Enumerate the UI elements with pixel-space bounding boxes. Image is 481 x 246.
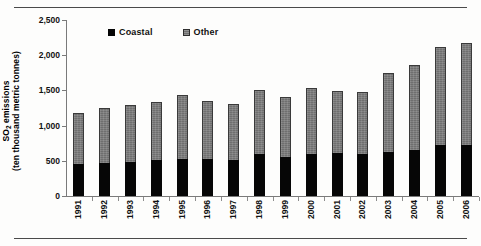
- bar-2006[interactable]: [461, 43, 472, 196]
- x-tick-label-1991: 1991: [73, 200, 84, 219]
- bar-segment-other[interactable]: [254, 90, 265, 154]
- x-tick-mark: [92, 197, 93, 201]
- bar-segment-other[interactable]: [409, 65, 420, 149]
- x-tick-label-2003: 2003: [383, 200, 394, 219]
- x-tick-label-2001: 2001: [332, 200, 343, 219]
- x-tick-label-1997: 1997: [228, 200, 239, 219]
- y-axis-label: SO2 emissions (ten thousand metric tonne…: [2, 36, 20, 186]
- bar-segment-coastal[interactable]: [73, 164, 84, 196]
- bar-segment-other[interactable]: [73, 113, 84, 164]
- y-tick-label-text: 2,500: [28, 16, 60, 25]
- bar-segment-coastal[interactable]: [280, 157, 291, 196]
- x-tick-label-2005: 2005: [435, 200, 446, 219]
- bar-2004[interactable]: [409, 65, 420, 196]
- x-tick-mark: [427, 197, 428, 201]
- y-axis-label-subscript: 2: [5, 125, 12, 129]
- x-tick-label-1998: 1998: [254, 200, 265, 219]
- bar-segment-other[interactable]: [280, 97, 291, 156]
- bar-1998[interactable]: [254, 90, 265, 196]
- bar-segment-coastal[interactable]: [202, 159, 213, 196]
- chart-legend: Coastal Other: [108, 27, 218, 37]
- x-tick-label-2002: 2002: [357, 200, 368, 219]
- bar-series-container: [66, 20, 479, 196]
- bar-1993[interactable]: [125, 105, 136, 197]
- bar-2002[interactable]: [357, 92, 368, 196]
- bar-1997[interactable]: [228, 104, 239, 196]
- y-tick-label-text: 1,000: [28, 122, 60, 131]
- bar-segment-coastal[interactable]: [409, 150, 420, 196]
- bar-segment-other[interactable]: [357, 92, 368, 154]
- bar-segment-coastal[interactable]: [306, 154, 317, 196]
- x-tick-mark: [273, 197, 274, 201]
- x-tick-mark: [324, 197, 325, 201]
- plot-area: SO2 emissions (ten thousand metric tonne…: [0, 0, 481, 246]
- bar-1995[interactable]: [177, 95, 188, 196]
- legend-swatch-coastal-icon: [108, 29, 115, 36]
- bar-1992[interactable]: [99, 108, 110, 196]
- x-tick-mark: [376, 197, 377, 201]
- x-tick-mark: [195, 197, 196, 201]
- bar-segment-coastal[interactable]: [383, 152, 394, 196]
- x-tick-mark: [169, 197, 170, 201]
- legend-swatch-other-icon: [183, 29, 190, 36]
- x-tick-label-1999: 1999: [280, 200, 291, 219]
- bar-1991[interactable]: [73, 113, 84, 196]
- bar-segment-other[interactable]: [177, 95, 188, 158]
- chart-figure: SO2 emissions (ten thousand metric tonne…: [0, 0, 481, 246]
- bar-1994[interactable]: [151, 102, 162, 196]
- legend-label-coastal: Coastal: [119, 27, 153, 37]
- y-axis-label-units: (ten thousand metric tonnes): [12, 36, 22, 186]
- bar-segment-coastal[interactable]: [435, 145, 446, 196]
- bar-2005[interactable]: [435, 47, 446, 196]
- legend-item-coastal: Coastal: [108, 27, 153, 37]
- bar-segment-other[interactable]: [332, 91, 343, 153]
- x-tick-mark: [247, 197, 248, 201]
- x-tick-mark: [298, 197, 299, 201]
- bar-segment-other[interactable]: [435, 47, 446, 146]
- bar-segment-coastal[interactable]: [332, 153, 343, 196]
- y-tick-label-text: 0: [28, 192, 60, 201]
- bar-segment-other[interactable]: [306, 88, 317, 153]
- x-tick-label-1996: 1996: [202, 200, 213, 219]
- bar-segment-coastal[interactable]: [228, 160, 239, 196]
- bar-1999[interactable]: [280, 97, 291, 196]
- bar-2001[interactable]: [332, 91, 343, 196]
- bar-2003[interactable]: [383, 73, 394, 196]
- x-tick-label-1992: 1992: [99, 200, 110, 219]
- y-axis-label-so: SO: [1, 129, 11, 141]
- x-tick-mark: [350, 197, 351, 201]
- bar-segment-other[interactable]: [383, 73, 394, 152]
- bar-segment-coastal[interactable]: [151, 160, 162, 196]
- x-tick-mark: [479, 197, 480, 201]
- x-tick-mark: [453, 197, 454, 201]
- x-tick-label-2000: 2000: [306, 200, 317, 219]
- bar-segment-other[interactable]: [99, 108, 110, 163]
- bar-segment-other[interactable]: [125, 105, 136, 162]
- y-tick-mark: [62, 196, 67, 197]
- bar-2000[interactable]: [306, 88, 317, 196]
- bar-segment-other[interactable]: [202, 101, 213, 159]
- x-tick-label-1993: 1993: [125, 200, 136, 219]
- y-tick-label-text: 500: [28, 157, 60, 166]
- x-tick-mark: [118, 197, 119, 201]
- bar-segment-coastal[interactable]: [461, 145, 472, 196]
- x-tick-mark: [143, 197, 144, 201]
- x-tick-mark: [402, 197, 403, 201]
- legend-item-other: Other: [183, 27, 219, 37]
- bar-segment-coastal[interactable]: [177, 159, 188, 196]
- x-tick-label-2004: 2004: [409, 200, 420, 219]
- bar-1996[interactable]: [202, 101, 213, 196]
- bar-segment-coastal[interactable]: [357, 154, 368, 196]
- x-tick-mark: [221, 197, 222, 201]
- bar-segment-other[interactable]: [461, 43, 472, 145]
- bar-segment-other[interactable]: [151, 102, 162, 160]
- y-tick-label-text: 1,500: [28, 86, 60, 95]
- bar-segment-other[interactable]: [228, 104, 239, 160]
- y-axis-label-emissions: emissions: [1, 80, 11, 125]
- x-tick-label-1994: 1994: [151, 200, 162, 219]
- bar-segment-coastal[interactable]: [254, 154, 265, 196]
- legend-label-other: Other: [194, 27, 219, 37]
- bar-segment-coastal[interactable]: [125, 162, 136, 196]
- x-tick-label-1995: 1995: [177, 200, 188, 219]
- bar-segment-coastal[interactable]: [99, 163, 110, 196]
